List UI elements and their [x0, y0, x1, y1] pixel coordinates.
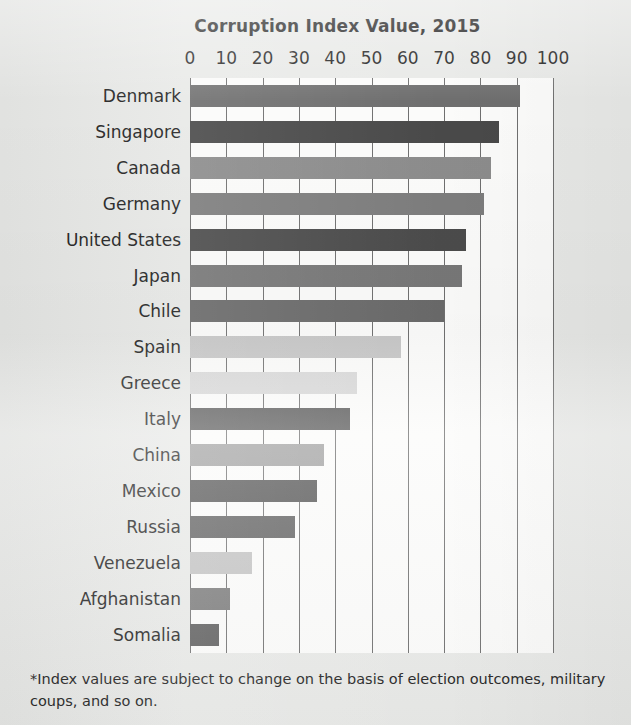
x-tick-label: 80: [470, 48, 492, 68]
bar: [190, 300, 444, 322]
bar: [190, 408, 350, 430]
x-tick-label: 70: [433, 48, 455, 68]
bar-row: Germany: [0, 189, 631, 219]
x-tick-label: 0: [185, 48, 196, 68]
category-label: Germany: [103, 189, 190, 219]
bar: [190, 157, 491, 179]
bar-row: Chile: [0, 296, 631, 326]
bar: [190, 372, 357, 394]
bar-row: Spain: [0, 332, 631, 362]
bar: [190, 588, 230, 610]
x-tick-label: 90: [506, 48, 528, 68]
category-label: China: [132, 440, 190, 470]
bar-row: United States: [0, 225, 631, 255]
bar: [190, 336, 401, 358]
bar-row: China: [0, 440, 631, 470]
category-label: Singapore: [95, 117, 190, 147]
bar: [190, 85, 520, 107]
bar: [190, 193, 484, 215]
bar-row: Mexico: [0, 476, 631, 506]
bar-row: Afghanistan: [0, 584, 631, 614]
chart-title: Corruption Index Value, 2015: [0, 16, 631, 36]
bar: [190, 121, 499, 143]
bar: [190, 265, 462, 287]
bar-row: Venezuela: [0, 548, 631, 578]
x-tick-label: 50: [361, 48, 383, 68]
category-label: Canada: [116, 153, 190, 183]
category-label: Venezuela: [94, 548, 190, 578]
bar-row: Denmark: [0, 81, 631, 111]
x-tick-label: 60: [397, 48, 419, 68]
category-label: Mexico: [122, 476, 190, 506]
bar-row: Italy: [0, 404, 631, 434]
bar-row: Russia: [0, 512, 631, 542]
category-label: Greece: [120, 368, 190, 398]
bar-row: Japan: [0, 261, 631, 291]
bar: [190, 516, 295, 538]
category-label: Italy: [144, 404, 190, 434]
bar: [190, 552, 252, 574]
category-label: Denmark: [103, 81, 190, 111]
bar-rows: DenmarkSingaporeCanadaGermanyUnited Stat…: [0, 78, 631, 653]
bar-row: Greece: [0, 368, 631, 398]
category-label: Spain: [134, 332, 191, 362]
x-axis-tick-labels: 0102030405060708090100: [0, 48, 631, 70]
category-label: Japan: [134, 261, 190, 291]
x-tick-label: 30: [288, 48, 310, 68]
category-label: United States: [66, 225, 190, 255]
category-label: Somalia: [113, 620, 190, 650]
x-tick-label: 40: [324, 48, 346, 68]
bar-row: Canada: [0, 153, 631, 183]
bar: [190, 229, 466, 251]
bar: [190, 480, 317, 502]
category-label: Chile: [138, 296, 190, 326]
category-label: Russia: [126, 512, 190, 542]
bar: [190, 444, 324, 466]
x-tick-label: 10: [215, 48, 237, 68]
chart-footnote: *Index values are subject to change on t…: [30, 668, 623, 713]
x-tick-label: 20: [252, 48, 274, 68]
bar: [190, 624, 219, 646]
bar-row: Somalia: [0, 620, 631, 650]
x-tick-label: 100: [537, 48, 569, 68]
category-label: Afghanistan: [80, 584, 190, 614]
bar-row: Singapore: [0, 117, 631, 147]
